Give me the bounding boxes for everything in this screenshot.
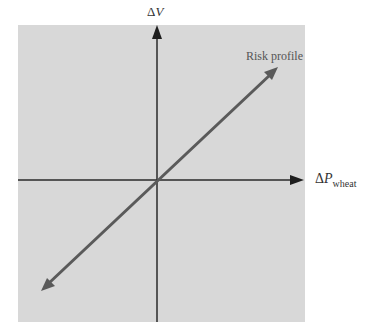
- plot-panel: [18, 25, 305, 322]
- y-axis-label: ΔV: [147, 4, 163, 20]
- risk-profile-diagram: [0, 0, 373, 333]
- x-axis-label: ΔPwheat: [315, 171, 356, 189]
- risk-profile-label: Risk profile: [246, 49, 303, 64]
